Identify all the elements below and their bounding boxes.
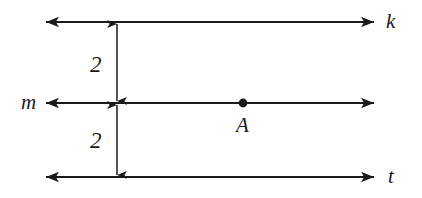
diagram-canvas xyxy=(0,0,422,198)
measure-label-k-m: 2 xyxy=(90,53,102,76)
line-label-m: m xyxy=(21,92,36,113)
point-label-A: A xyxy=(236,115,249,136)
geometry-diagram: k m t A 2 2 xyxy=(0,0,422,198)
line-label-k: k xyxy=(386,11,395,32)
line-label-t: t xyxy=(388,166,394,187)
measure-label-m-t: 2 xyxy=(90,129,102,152)
point-A-dot xyxy=(239,99,248,108)
